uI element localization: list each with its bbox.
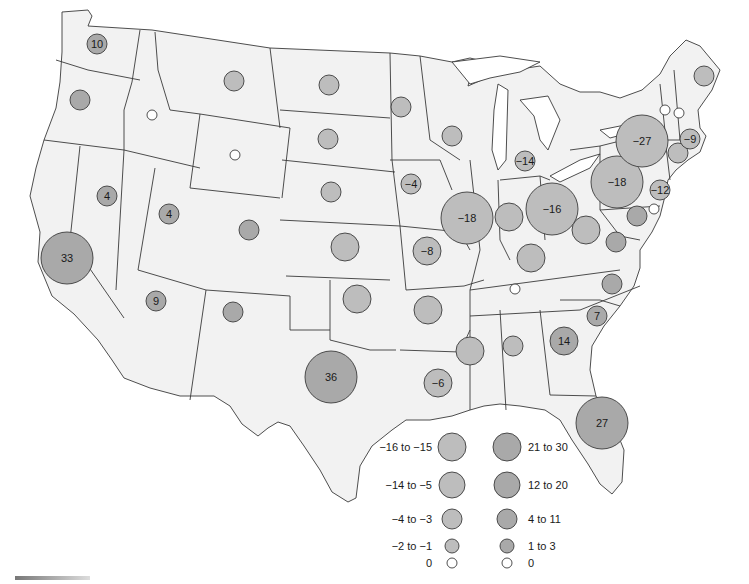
state-bubble-mt xyxy=(224,71,244,91)
bubble-label: −8 xyxy=(421,245,434,257)
bubble-label: −27 xyxy=(633,135,652,147)
state-bubble-tx: 36 xyxy=(305,351,357,403)
bubble-circle xyxy=(510,284,520,294)
legend-negative-symbol xyxy=(447,558,457,568)
state-bubble-or xyxy=(70,90,90,110)
bubble-label: 4 xyxy=(104,190,110,202)
legend-positive-label: 4 to 11 xyxy=(528,513,561,525)
bubble-label: 27 xyxy=(596,417,608,429)
state-bubble-sc: 7 xyxy=(587,306,607,326)
bubble-label: −4 xyxy=(405,178,418,190)
legend-positive-symbol xyxy=(502,558,512,568)
legend-positive-label: 21 to 30 xyxy=(528,441,568,453)
bubble-circle xyxy=(239,220,259,240)
bubble-circle xyxy=(442,126,462,146)
state-bubble-ms xyxy=(456,337,484,365)
state-bubble-id xyxy=(147,110,157,120)
state-bubble-ma: −9 xyxy=(680,129,700,149)
bubble-circle xyxy=(331,233,359,261)
state-bubble-ga: 14 xyxy=(550,327,578,355)
bubble-label: 4 xyxy=(166,208,172,220)
legend-negative-label: −4 to −3 xyxy=(392,513,432,525)
state-bubble-wi xyxy=(442,126,462,146)
bubble-label: −6 xyxy=(432,377,445,389)
bubble-circle xyxy=(606,232,626,252)
bubble-circle xyxy=(660,105,670,115)
bubble-label: −16 xyxy=(543,203,562,215)
state-bubble-nj: −12 xyxy=(650,180,670,200)
scale-bar xyxy=(15,576,90,580)
state-bubble-oh: −16 xyxy=(526,183,578,235)
legend-positive-label: 1 to 3 xyxy=(528,540,556,552)
bubble-label: −18 xyxy=(608,176,627,188)
bubble-label: 10 xyxy=(91,38,103,50)
state-bubble-wy xyxy=(230,150,240,160)
state-bubble-al xyxy=(503,336,523,356)
bubble-circle xyxy=(223,302,243,322)
state-bubble-vt xyxy=(660,105,670,115)
state-bubble-nc xyxy=(602,274,622,294)
state-bubble-wa: 10 xyxy=(87,34,107,54)
state-bubble-fl: 27 xyxy=(576,397,628,449)
bubble-label: −14 xyxy=(516,155,535,167)
bubble-label: 33 xyxy=(61,252,73,264)
legend-negative-symbol xyxy=(438,433,466,461)
bubble-circle xyxy=(456,337,484,365)
state-bubble-mo: −8 xyxy=(413,237,441,265)
state-bubble-nv: 4 xyxy=(97,186,117,206)
legend: −16 to −15−14 to −5−4 to −3−2 to −1021 t… xyxy=(379,433,567,569)
bubble-label: −9 xyxy=(684,133,697,145)
state-bubble-ca: 33 xyxy=(41,232,93,284)
bubble-label: 36 xyxy=(325,371,337,383)
state-bubble-ia: −4 xyxy=(401,174,421,194)
legend-negative-symbol xyxy=(445,539,459,553)
bubble-circle xyxy=(602,274,622,294)
state-bubble-tn xyxy=(510,284,520,294)
state-bubble-md xyxy=(627,206,647,226)
bubble-circle xyxy=(674,108,684,118)
legend-negative-label: −16 to −15 xyxy=(379,441,432,453)
bubble-circle xyxy=(627,206,647,226)
state-bubble-mn xyxy=(391,97,411,117)
state-bubble-sd xyxy=(318,129,338,149)
state-bubble-me xyxy=(694,66,714,86)
state-bubble-nd xyxy=(319,75,339,95)
bubble-circle xyxy=(230,150,240,160)
legend-negative-symbol xyxy=(439,472,465,498)
bubble-circle xyxy=(503,336,523,356)
state-bubble-az: 9 xyxy=(146,291,166,311)
legend-positive-symbol xyxy=(497,509,517,529)
bubble-circle xyxy=(147,110,157,120)
bubble-circle xyxy=(224,71,244,91)
bubble-circle xyxy=(70,90,90,110)
state-bubble-il: −18 xyxy=(441,192,493,244)
legend-negative-label: −2 to −1 xyxy=(392,540,432,552)
bubble-label: 9 xyxy=(153,295,159,307)
bubble-label: 7 xyxy=(594,310,600,322)
state-bubble-wv xyxy=(572,216,600,244)
bubble-label: −12 xyxy=(651,184,670,196)
bubble-label: 14 xyxy=(558,335,570,347)
state-bubble-ok xyxy=(343,285,371,313)
state-bubble-ky xyxy=(517,244,545,272)
bubble-circle xyxy=(694,66,714,86)
legend-positive-symbol xyxy=(500,539,514,553)
state-bubble-de xyxy=(649,204,659,214)
bubble-circle xyxy=(343,285,371,313)
legend-negative-label: −14 to −5 xyxy=(386,479,433,491)
state-bubble-va xyxy=(606,232,626,252)
legend-negative-label: 0 xyxy=(426,557,432,569)
bubble-label: −18 xyxy=(458,212,477,224)
bubble-circle xyxy=(321,182,341,202)
legend-negative-symbol xyxy=(442,509,462,529)
state-bubble-in xyxy=(495,203,523,231)
state-bubble-co xyxy=(239,220,259,240)
bubble-circle xyxy=(319,75,339,95)
bubble-circle xyxy=(517,244,545,272)
legend-positive-symbol xyxy=(493,433,521,461)
state-bubble-ne xyxy=(321,182,341,202)
us-map: 103344936−4−8−6−18−14−1614277−18−12−27−9… xyxy=(0,0,749,584)
bubble-circle xyxy=(649,204,659,214)
state-bubble-ar xyxy=(414,296,442,324)
bubble-circle xyxy=(572,216,600,244)
